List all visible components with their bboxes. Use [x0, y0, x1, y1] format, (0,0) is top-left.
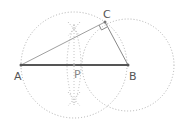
- geometry-figure: A B C P: [0, 0, 188, 132]
- right-angle-marker: [99, 25, 107, 30]
- label-b: B: [129, 70, 137, 83]
- label-a: A: [14, 70, 22, 83]
- segment-ac: [21, 22, 105, 65]
- label-c: C: [103, 8, 111, 21]
- diagram-canvas: A B C P: [0, 0, 188, 132]
- point-p: [73, 64, 76, 67]
- point-a: [20, 64, 23, 67]
- label-p: P: [74, 68, 81, 81]
- segment-cb: [105, 22, 128, 65]
- point-b: [127, 64, 130, 67]
